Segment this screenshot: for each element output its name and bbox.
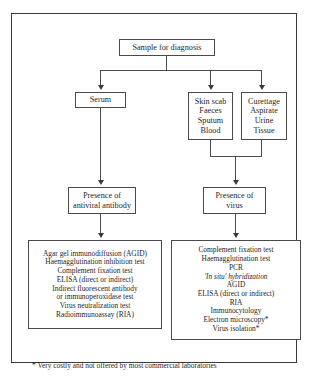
node-sample-for-diagnosis: Sample for diagnosis bbox=[119, 39, 215, 56]
connector-drop-serum bbox=[100, 70, 101, 86]
node-line: Serum bbox=[90, 95, 111, 105]
arrowhead-virus bbox=[233, 180, 239, 185]
connector-drop-skinscab bbox=[210, 70, 211, 86]
node-line: Tissue bbox=[253, 126, 274, 136]
connector-drop-curettage bbox=[261, 70, 262, 86]
node-line: antiviral antibody bbox=[73, 201, 131, 211]
node-line: Skin scab bbox=[195, 97, 227, 107]
connector-sample-stem bbox=[166, 56, 167, 70]
node-presence-of-virus: Presence of virus bbox=[203, 187, 266, 214]
node-curettage: Curettage Aspirate Urine Tissue bbox=[241, 92, 287, 140]
connector-virus-to-virology bbox=[235, 214, 236, 233]
test-line: Radioimmunoassay (RIA) bbox=[56, 311, 134, 320]
node-serology-tests: Agar gel immunodiffusion (AGID) Haemaggl… bbox=[28, 240, 162, 329]
node-line: Urine bbox=[255, 116, 274, 126]
connector-antibody-to-serology bbox=[100, 214, 101, 233]
connector-sample-distributor bbox=[100, 70, 261, 71]
connector-curettage-down bbox=[261, 140, 262, 156]
node-line: Presence of bbox=[216, 191, 254, 201]
connector-skinscab-down bbox=[210, 140, 211, 156]
node-line: Curettage bbox=[248, 97, 280, 107]
connector-merge-to-virus bbox=[235, 156, 236, 180]
arrowhead-curettage bbox=[259, 85, 265, 90]
node-skin-scab: Skin scab Faeces Sputum Blood bbox=[188, 92, 233, 140]
footnote: * Very costly and not offered by most co… bbox=[32, 361, 217, 370]
connector-serum-to-antibody bbox=[100, 108, 101, 180]
arrowhead-serology bbox=[98, 233, 104, 238]
node-line: Aspirate bbox=[250, 106, 278, 116]
diagnostic-sample-flowchart: Sample for diagnosis Serum Skin scab Fae… bbox=[0, 0, 310, 379]
node-line: Faeces bbox=[199, 106, 221, 116]
arrowhead-antibody bbox=[98, 180, 104, 185]
node-line: virus bbox=[226, 201, 242, 211]
figure-frame: Sample for diagnosis Serum Skin scab Fae… bbox=[11, 13, 297, 363]
node-label: Sample for diagnosis bbox=[132, 43, 201, 53]
arrowhead-serum bbox=[98, 85, 104, 90]
arrowhead-virology bbox=[233, 233, 239, 238]
node-line: Blood bbox=[200, 126, 220, 136]
node-presence-of-antiviral-antibody: Presence of antiviral antibody bbox=[68, 187, 136, 214]
node-serum: Serum bbox=[75, 92, 126, 108]
node-line: Presence of bbox=[83, 191, 121, 201]
connector-sample-merge bbox=[210, 156, 262, 157]
node-virology-tests: Complement fixation test Haemagglutinati… bbox=[171, 240, 301, 340]
test-line: Virus isolation* bbox=[213, 325, 260, 334]
node-line: Sputum bbox=[198, 116, 223, 126]
arrowhead-skinscab bbox=[208, 85, 214, 90]
